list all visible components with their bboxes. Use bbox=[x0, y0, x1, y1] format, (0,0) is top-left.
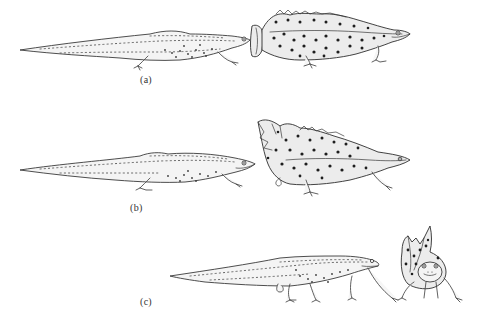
panel-label-a: (a) bbox=[140, 74, 152, 85]
panel-label-c: (c) bbox=[140, 296, 152, 307]
panel-c: (c) bbox=[0, 220, 485, 324]
walking-newt-front-leg-2 bbox=[368, 268, 398, 302]
old-skin-body bbox=[262, 13, 410, 60]
walking-newt-front-leg bbox=[348, 276, 356, 300]
panel-c-illustration bbox=[0, 220, 485, 324]
newt-ecdysis-figure: (a) bbox=[0, 0, 485, 324]
walking-newt-body bbox=[170, 256, 379, 286]
shed-casing-face bbox=[418, 262, 442, 282]
panel-a-illustration bbox=[0, 0, 485, 100]
freed-newt-body bbox=[20, 153, 255, 183]
panel-label-b: (b) bbox=[130, 202, 143, 213]
shed-skin-front-leg bbox=[372, 172, 392, 190]
panel-b-illustration bbox=[0, 110, 485, 220]
emerging-newt-front-leg bbox=[218, 52, 238, 65]
panel-a: (a) bbox=[0, 0, 485, 100]
walking-newt-hind-leg bbox=[286, 284, 296, 302]
panel-b: (b) bbox=[0, 110, 485, 220]
shed-casing-right-leg bbox=[444, 278, 462, 302]
freed-newt-front-leg bbox=[222, 174, 242, 187]
walking-newt-eye bbox=[370, 259, 373, 262]
walking-newt-hind-leg-2 bbox=[310, 284, 320, 302]
emerging-newt-body bbox=[20, 31, 250, 60]
